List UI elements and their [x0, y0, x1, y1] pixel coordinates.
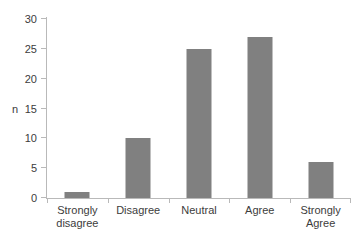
bar-slot: [229, 0, 290, 198]
y-axis-tick-label: 10: [25, 132, 37, 144]
y-axis-tick: 30: [0, 13, 46, 25]
category-label-line1: Neutral: [169, 204, 230, 217]
x-axis-tick-mark: [108, 198, 109, 203]
x-axis-category-label: Agree: [229, 204, 290, 217]
y-axis-tick-label: 15: [25, 103, 37, 115]
y-axis-tick-label: 20: [25, 73, 37, 85]
y-axis-tick-mark: [41, 167, 46, 168]
bar-chart: n 302520151050 StronglydisagreeDisagreeN…: [0, 0, 357, 251]
bar-slot: [290, 0, 351, 198]
y-axis-tick-mark: [41, 197, 46, 198]
x-axis-tick-mark: [47, 198, 48, 203]
y-axis-tick: 20: [0, 73, 46, 85]
x-axis-category-label: Disagree: [108, 204, 169, 217]
bar[interactable]: [247, 37, 272, 198]
x-axis-tick-mark: [169, 198, 170, 203]
x-axis-tick-mark: [290, 198, 291, 203]
y-axis-tick: 5: [0, 162, 46, 174]
y-axis-tick: 0: [0, 192, 46, 204]
x-axis-category-label: StronglyAgree: [290, 204, 351, 230]
y-axis-tick-label: 30: [25, 13, 37, 25]
bar-slot: [108, 0, 169, 198]
y-axis-tick-label: 5: [31, 162, 37, 174]
y-axis-tick-mark: [41, 18, 46, 19]
y-axis-tick: 15: [0, 103, 46, 115]
bar-series: [47, 0, 351, 199]
x-axis-tick-mark: [350, 198, 351, 203]
y-axis-tick-mark: [41, 48, 46, 49]
category-label-line1: Strongly: [290, 204, 351, 217]
category-label-line2: Agree: [290, 217, 351, 230]
category-label-line1: Agree: [229, 204, 290, 217]
y-axis-tick-label: 25: [25, 43, 37, 55]
y-axis-tick: 25: [0, 43, 46, 55]
category-label-line1: Strongly: [47, 204, 108, 217]
y-axis-tick: 10: [0, 132, 46, 144]
bar-slot: [47, 0, 108, 198]
category-label-line1: Disagree: [108, 204, 169, 217]
bar-slot: [169, 0, 230, 198]
y-axis-tick-label: 0: [31, 192, 37, 204]
x-axis-tick-mark: [229, 198, 230, 203]
bar[interactable]: [126, 138, 151, 198]
y-axis-tick-mark: [41, 108, 46, 109]
bar[interactable]: [308, 162, 333, 198]
x-axis-category-label: Stronglydisagree: [47, 204, 108, 230]
y-axis-tick-mark: [41, 78, 46, 79]
category-label-line2: disagree: [47, 217, 108, 230]
x-axis-category-label: Neutral: [169, 204, 230, 217]
x-axis-labels: StronglydisagreeDisagreeNeutralAgreeStro…: [47, 204, 351, 244]
bar[interactable]: [186, 49, 211, 198]
y-axis-tick-mark: [41, 137, 46, 138]
